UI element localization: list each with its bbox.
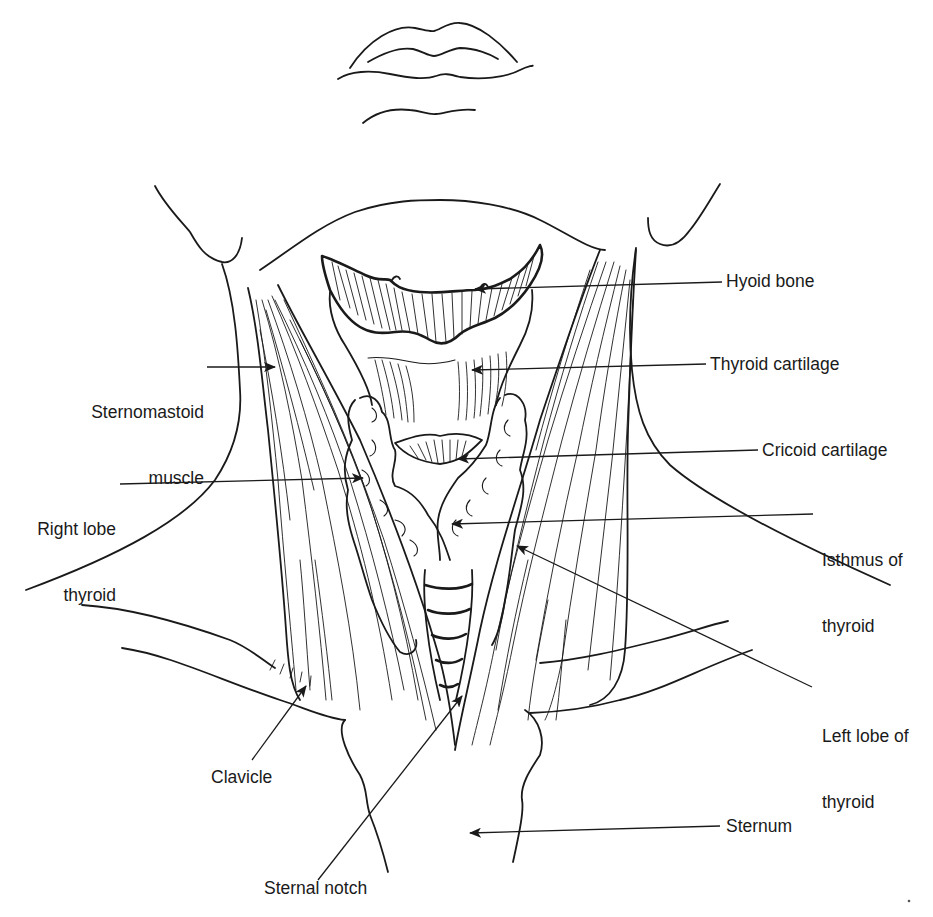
label-left-lobe-line2: thyroid xyxy=(822,791,909,813)
label-left-lobe-line1: Left lobe of xyxy=(822,725,909,747)
label-thyroid-cartilage: Thyroid cartilage xyxy=(710,353,839,375)
label-sternal-notch: Sternal notch xyxy=(264,877,367,899)
trachea xyxy=(424,570,472,700)
label-isthmus-line1: Isthmus of xyxy=(822,549,903,571)
clavicle-leader xyxy=(252,686,306,760)
label-sternomastoid-muscle: Sternomastoid muscle xyxy=(60,357,204,511)
cricoid-leader xyxy=(458,450,758,459)
label-clavicle: Clavicle xyxy=(211,766,272,788)
thyroid-gland xyxy=(345,394,527,654)
right-sternomastoid-muscle xyxy=(248,285,455,745)
anatomy-figure: Hyoid bone Thyroid cartilage Cricoid car… xyxy=(0,0,933,917)
label-left-lobe-of-thyroid: Left lobe of thyroid xyxy=(822,681,909,835)
label-isthmus-of-thyroid: Isthmus of thyroid xyxy=(822,505,903,659)
label-sternomastoid-line1: Sternomastoid xyxy=(60,401,204,423)
label-right-lobe-line1: Right lobe xyxy=(16,518,116,540)
label-sternum: Sternum xyxy=(726,815,792,837)
stray-dot xyxy=(908,900,911,903)
hyoid-bone xyxy=(322,245,542,343)
left-sternomastoid-muscle xyxy=(455,250,636,750)
label-right-lobe-line2: thyroid xyxy=(16,584,116,606)
sternal-notch-leader xyxy=(318,696,462,880)
label-cricoid-cartilage: Cricoid cartilage xyxy=(762,439,887,461)
label-isthmus-line2: thyroid xyxy=(822,615,903,637)
label-hyoid-bone: Hyoid bone xyxy=(726,270,815,292)
cricoid-cartilage xyxy=(395,434,482,464)
sternum-shape xyxy=(342,710,542,872)
label-sternomastoid-line2: muscle xyxy=(60,467,204,489)
sternum-leader xyxy=(470,826,720,833)
lips xyxy=(338,23,533,123)
